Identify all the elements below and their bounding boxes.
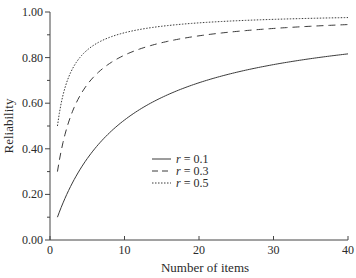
y-tick-label: 0.80 xyxy=(22,51,43,65)
x-tick-label: 30 xyxy=(268,243,280,257)
x-axis-label: Number of items xyxy=(161,260,249,275)
svg-text:r = 0.5: r = 0.5 xyxy=(176,176,208,190)
y-tick-label: 0.40 xyxy=(22,142,43,156)
y-tick-label: 0.60 xyxy=(22,96,43,110)
y-tick-label: 1.00 xyxy=(22,5,43,19)
y-ticks: 0.000.200.400.600.801.00 xyxy=(22,5,50,247)
series-line-r-0-1 xyxy=(57,54,348,217)
series-line-r-0-5 xyxy=(57,18,348,126)
axes xyxy=(50,12,348,240)
x-ticks: 010203040 xyxy=(47,236,354,257)
y-tick-label: 0.00 xyxy=(22,233,43,247)
y-axis-label: Reliability xyxy=(1,98,16,153)
x-tick-label: 0 xyxy=(47,243,53,257)
x-tick-label: 10 xyxy=(119,243,131,257)
y-tick-label: 0.20 xyxy=(22,187,43,201)
x-tick-label: 20 xyxy=(193,243,205,257)
reliability-chart: Reliability 0.000.200.400.600.801.00 010… xyxy=(0,0,356,278)
legend-item: r = 0.5 xyxy=(152,176,208,190)
legend-text: = 0.5 xyxy=(181,176,209,190)
series-line-r-0-3 xyxy=(57,25,348,172)
legend: r = 0.1 r = 0.3 r = 0.5 xyxy=(152,152,208,190)
x-tick-label: 40 xyxy=(342,243,354,257)
